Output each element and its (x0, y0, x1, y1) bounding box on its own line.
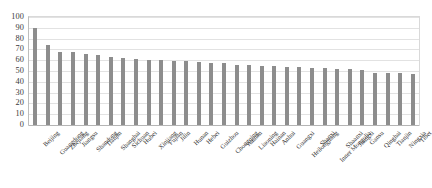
bar[interactable] (398, 73, 402, 125)
bar[interactable] (209, 63, 213, 125)
y-axis-tick-label: 100 (11, 13, 24, 21)
bar[interactable] (386, 73, 390, 125)
bar-slot (104, 17, 117, 125)
bar[interactable] (348, 69, 352, 125)
bar-slot (381, 17, 394, 125)
y-axis-tick-label: 0 (20, 121, 24, 129)
bar[interactable] (184, 61, 188, 125)
y-axis-tick-label: 90 (16, 24, 25, 32)
x-axis-tick-label: Beijing (42, 129, 61, 148)
x-axis: BeijingGuangdongZhejiangJiangsuShandongT… (29, 127, 419, 188)
bar[interactable] (323, 68, 327, 125)
bar-slot (281, 17, 294, 125)
bar[interactable] (335, 69, 339, 125)
bar[interactable] (285, 67, 289, 125)
y-axis-tick-label: 50 (16, 67, 25, 75)
y-axis-tick-label: 20 (16, 99, 25, 107)
bar[interactable] (134, 59, 138, 125)
y-axis-tick-label: 60 (16, 56, 25, 64)
bar-slot (318, 17, 331, 125)
bar-slot (293, 17, 306, 125)
bar-slot (155, 17, 168, 125)
bar[interactable] (373, 73, 377, 125)
y-axis-tick-label: 70 (16, 45, 25, 53)
bar-slot (406, 17, 419, 125)
bar[interactable] (222, 63, 226, 125)
y-axis: 1009080706050403020100 (0, 16, 26, 126)
bar-slot (268, 17, 281, 125)
bar-slot (331, 17, 344, 125)
bar[interactable] (172, 61, 176, 125)
bar-slot (92, 17, 105, 125)
bar-slot (79, 17, 92, 125)
bar-slot (369, 17, 382, 125)
bar-slot (130, 17, 143, 125)
x-axis-tick-label: Guangxi (294, 129, 315, 150)
y-axis-tick-label: 40 (16, 78, 25, 86)
y-axis-tick-label: 30 (16, 88, 25, 96)
bar-slot (117, 17, 130, 125)
bar-slot (42, 17, 55, 125)
bar[interactable] (360, 70, 364, 125)
bar[interactable] (247, 65, 251, 125)
bar[interactable] (272, 66, 276, 125)
bar-slot (142, 17, 155, 125)
bar[interactable] (96, 55, 100, 125)
bar[interactable] (46, 45, 50, 125)
bar-slot (180, 17, 193, 125)
bar-slot (54, 17, 67, 125)
bar-slot (230, 17, 243, 125)
bars-layer (29, 17, 419, 125)
bar[interactable] (297, 67, 301, 125)
bar[interactable] (109, 57, 113, 125)
bar[interactable] (310, 68, 314, 125)
bar-slot (344, 17, 357, 125)
bar-slot (193, 17, 206, 125)
bar-slot (243, 17, 256, 125)
bar-slot (67, 17, 80, 125)
gridline (29, 125, 419, 126)
bar-slot (356, 17, 369, 125)
bar[interactable] (197, 62, 201, 125)
y-axis-tick-label: 10 (16, 110, 25, 118)
bar-slot (306, 17, 319, 125)
bar-slot (167, 17, 180, 125)
bar[interactable] (33, 28, 37, 125)
bar[interactable] (58, 52, 62, 125)
bar[interactable] (84, 54, 88, 125)
bar-slot (205, 17, 218, 125)
bar[interactable] (411, 74, 415, 125)
bar[interactable] (147, 60, 151, 125)
bar[interactable] (121, 58, 125, 125)
bar-slot (255, 17, 268, 125)
bar[interactable] (71, 52, 75, 125)
y-axis-tick-label: 80 (16, 34, 25, 42)
bar-slot (29, 17, 42, 125)
bar-slot (394, 17, 407, 125)
bar[interactable] (159, 60, 163, 125)
bar[interactable] (235, 65, 239, 125)
bar[interactable] (260, 66, 264, 125)
bar-slot (218, 17, 231, 125)
